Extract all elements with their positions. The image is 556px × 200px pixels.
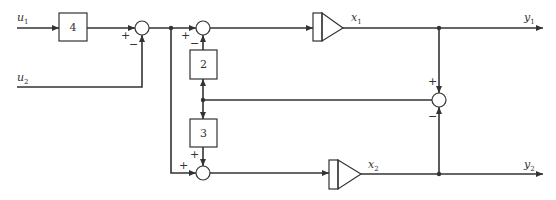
sum4-sign-minus: − — [428, 111, 437, 122]
label-y1: y1 — [524, 11, 535, 26]
block-diagram: u1 u2 x1 x2 y1 y2 4 2 3 + − + − + + + − — [0, 0, 556, 200]
sum2-sign-plus: + — [181, 30, 190, 41]
label-u1: u1 — [17, 11, 29, 26]
label-x2: x2 — [368, 158, 379, 173]
label-y2: y2 — [524, 158, 535, 173]
sum3-sign-plus-top: + — [190, 149, 199, 160]
label-u2: u2 — [17, 71, 29, 86]
gain-block-2: 2 — [190, 50, 217, 79]
sum4-sign-plus: + — [428, 76, 437, 87]
sum3-sign-plus-left: + — [179, 160, 188, 171]
sum1-sign-minus: − — [129, 39, 138, 50]
gain-block-3: 3 — [190, 119, 217, 147]
sum2-sign-minus: − — [190, 38, 199, 49]
label-x1: x1 — [351, 11, 362, 26]
gain-block-4: 4 — [59, 13, 87, 41]
